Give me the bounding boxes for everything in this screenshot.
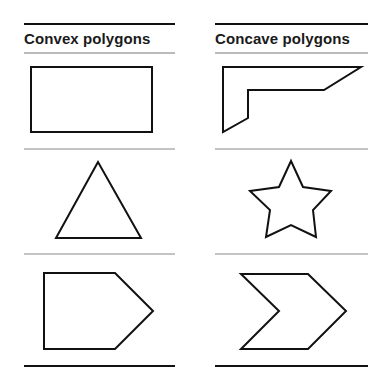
- star-shape: [250, 161, 331, 237]
- chevron-shape: [241, 274, 346, 349]
- rectangle-shape: [31, 67, 152, 132]
- polygon-comparison-table: [0, 0, 384, 384]
- triangle-shape: [56, 162, 141, 238]
- l-shaped-polygon-shape: [223, 67, 361, 132]
- pentagon-shape: [44, 273, 153, 349]
